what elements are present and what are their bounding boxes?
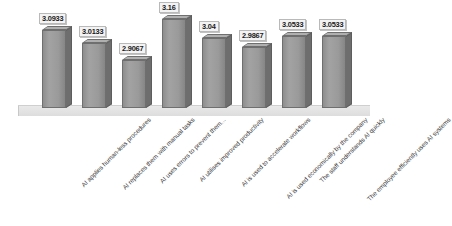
bar-side-face: [266, 43, 272, 108]
bar-front-face: [82, 43, 106, 108]
bar-side-face: [306, 32, 312, 108]
bar-front-face: [322, 36, 346, 108]
bar-column[interactable]: [122, 60, 146, 108]
bar-value-label: 3.04: [199, 21, 219, 32]
bar-side-face: [106, 39, 112, 108]
bar-series: 3.0933 3.0133 2.9067: [18, 4, 376, 108]
bar-front-face: [122, 60, 146, 108]
bar-value-label: 3.0133: [79, 26, 106, 37]
bar-value-label: 3.0533: [279, 19, 306, 30]
bar-value-label: 2.9867: [239, 30, 266, 41]
bar-front-face: [162, 19, 186, 108]
bar-column[interactable]: [282, 36, 306, 108]
bar-value-label: 3.0533: [319, 19, 346, 30]
bar-front-face: [202, 38, 226, 108]
category-label: AI uses errors to prevent them...: [158, 116, 226, 184]
bar-front-face: [282, 36, 306, 108]
bar-value-label: 3.16: [159, 2, 179, 13]
bar-column[interactable]: [42, 30, 66, 108]
bar-value-label: 2.9067: [119, 43, 146, 54]
bar-value-label: 3.0933: [39, 13, 66, 24]
bar-side-face: [346, 32, 352, 108]
bar-column[interactable]: [82, 43, 106, 108]
category-axis-labels: AI applies human-less procedures AI repl…: [0, 116, 390, 226]
bar-column[interactable]: [202, 38, 226, 108]
bar-front-face: [42, 30, 66, 108]
bar-column[interactable]: [162, 19, 186, 108]
bar-side-face: [66, 26, 72, 108]
bar-side-face: [146, 56, 152, 108]
category-label: The employee efficiently uses AI systems: [366, 116, 452, 202]
bar-front-face: [242, 47, 266, 108]
plot-area: 3.0933 3.0133 2.9067: [18, 4, 376, 116]
bar-column[interactable]: [322, 36, 346, 108]
bar-side-face: [226, 34, 232, 108]
bar-column[interactable]: [242, 47, 266, 108]
bar-side-face: [186, 15, 192, 108]
category-label: AI applies human-less procedures: [80, 116, 152, 188]
